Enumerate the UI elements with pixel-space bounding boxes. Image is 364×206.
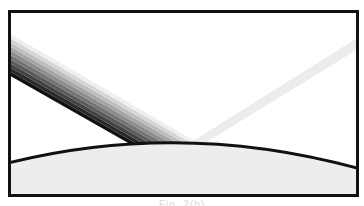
figure-caption: Fig. 2(b) xyxy=(0,199,364,206)
reflection-diagram xyxy=(0,0,364,206)
